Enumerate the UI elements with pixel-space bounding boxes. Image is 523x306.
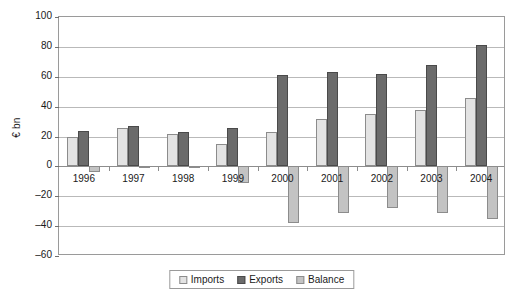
bar-exports-2000 <box>277 75 288 166</box>
x-tick-label-2001: 2001 <box>307 173 357 184</box>
bar-balance-1996 <box>89 166 100 172</box>
y-tick-mark <box>55 196 59 197</box>
chart-legend: ImportsExportsBalance <box>169 270 354 289</box>
legend-swatch-balance-icon <box>296 276 304 284</box>
x-tick-mark <box>307 166 308 171</box>
y-tick-mark <box>55 17 59 18</box>
y-tick-mark <box>55 77 59 78</box>
legend-entry-imports: Imports <box>179 274 224 285</box>
bar-imports-2003 <box>415 110 426 167</box>
x-tick-label-2002: 2002 <box>357 173 407 184</box>
chart-figure: € bn 100806040200–20–40–60 1996199719981… <box>0 0 523 306</box>
plot-area: 199619971998199920002001200220032004 <box>58 16 505 255</box>
x-tick-label-1997: 1997 <box>109 173 159 184</box>
legend-label: Exports <box>249 274 283 285</box>
x-tick-mark <box>109 166 110 171</box>
bar-exports-1999 <box>227 128 238 167</box>
y-tick-mark <box>55 256 59 257</box>
y-tick-mark <box>55 47 59 48</box>
x-tick-label-1996: 1996 <box>59 173 109 184</box>
legend-entry-balance: Balance <box>296 274 344 285</box>
bar-balance-1997 <box>139 166 150 168</box>
bar-imports-1999 <box>216 144 227 166</box>
gridline <box>59 226 504 227</box>
bar-exports-1998 <box>178 132 189 166</box>
bar-exports-2002 <box>376 74 387 167</box>
bar-imports-1997 <box>117 128 128 167</box>
bar-imports-2000 <box>266 132 277 166</box>
bar-exports-2004 <box>476 45 487 166</box>
x-tick-label-2003: 2003 <box>407 173 457 184</box>
bar-imports-2004 <box>465 98 476 167</box>
bar-balance-1998 <box>189 166 200 168</box>
x-tick-label-2004: 2004 <box>456 173 506 184</box>
x-tick-label-1998: 1998 <box>158 173 208 184</box>
y-tick-label: –20 <box>22 190 52 200</box>
x-tick-label-2000: 2000 <box>258 173 308 184</box>
y-tick-label: –40 <box>22 220 52 230</box>
legend-label: Imports <box>191 274 224 285</box>
y-tick-label: 20 <box>22 131 52 141</box>
y-tick-label: 60 <box>22 71 52 81</box>
bar-exports-2003 <box>426 65 437 167</box>
bar-exports-2001 <box>327 72 338 166</box>
bar-exports-1997 <box>128 126 139 166</box>
legend-swatch-imports-icon <box>179 276 187 284</box>
x-tick-label-1999: 1999 <box>208 173 258 184</box>
bar-exports-1996 <box>78 131 89 167</box>
bar-imports-2002 <box>365 114 376 166</box>
bar-imports-1996 <box>67 137 78 167</box>
y-tick-label: –60 <box>22 250 52 260</box>
x-tick-mark <box>357 166 358 171</box>
gridline <box>59 47 504 48</box>
y-tick-label: 100 <box>22 11 52 21</box>
x-tick-mark <box>208 166 209 171</box>
bar-imports-2001 <box>316 119 327 167</box>
legend-label: Balance <box>308 274 344 285</box>
y-tick-label: 40 <box>22 101 52 111</box>
x-tick-mark <box>407 166 408 171</box>
legend-entry-exports: Exports <box>237 274 283 285</box>
y-tick-label: 80 <box>22 41 52 51</box>
y-tick-mark <box>55 226 59 227</box>
x-tick-mark <box>456 166 457 171</box>
legend-swatch-exports-icon <box>237 276 245 284</box>
y-tick-label: 0 <box>22 160 52 170</box>
y-tick-mark <box>55 107 59 108</box>
x-tick-mark <box>258 166 259 171</box>
bar-imports-1998 <box>167 134 178 167</box>
x-tick-mark <box>158 166 159 171</box>
y-tick-mark <box>55 137 59 138</box>
y-axis-tick-labels: 100806040200–20–40–60 <box>18 0 52 306</box>
y-tick-mark <box>55 166 59 167</box>
